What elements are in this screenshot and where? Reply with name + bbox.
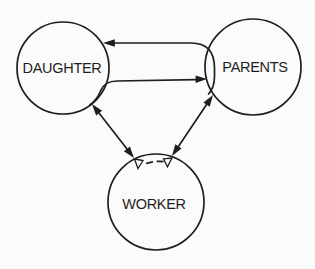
arrowhead-at-daughter: [103, 39, 115, 47]
open-arrowhead-left-icon: [135, 159, 144, 169]
parents-to-daughter-arrow: [114, 43, 215, 94]
arrowhead-at-worker-right: [172, 144, 182, 156]
parents-worker-arrow: [178, 105, 206, 147]
daughter-label: DAUGHTER: [23, 60, 102, 76]
daughter-to-parents-arrow: [90, 80, 197, 105]
diagram-canvas: DAUGHTER PARENTS WORKER: [0, 0, 315, 269]
parents-label: PARENTS: [222, 59, 287, 75]
daughter-worker-arrow: [99, 113, 127, 149]
arrowhead-at-parents-edge: [203, 95, 213, 107]
role-relationship-diagram: DAUGHTER PARENTS WORKER: [0, 0, 315, 269]
worker-label: WORKER: [122, 196, 185, 212]
worker-boundary-dashed-line: [146, 161, 164, 163]
open-arrowhead-right-icon: [164, 158, 173, 167]
